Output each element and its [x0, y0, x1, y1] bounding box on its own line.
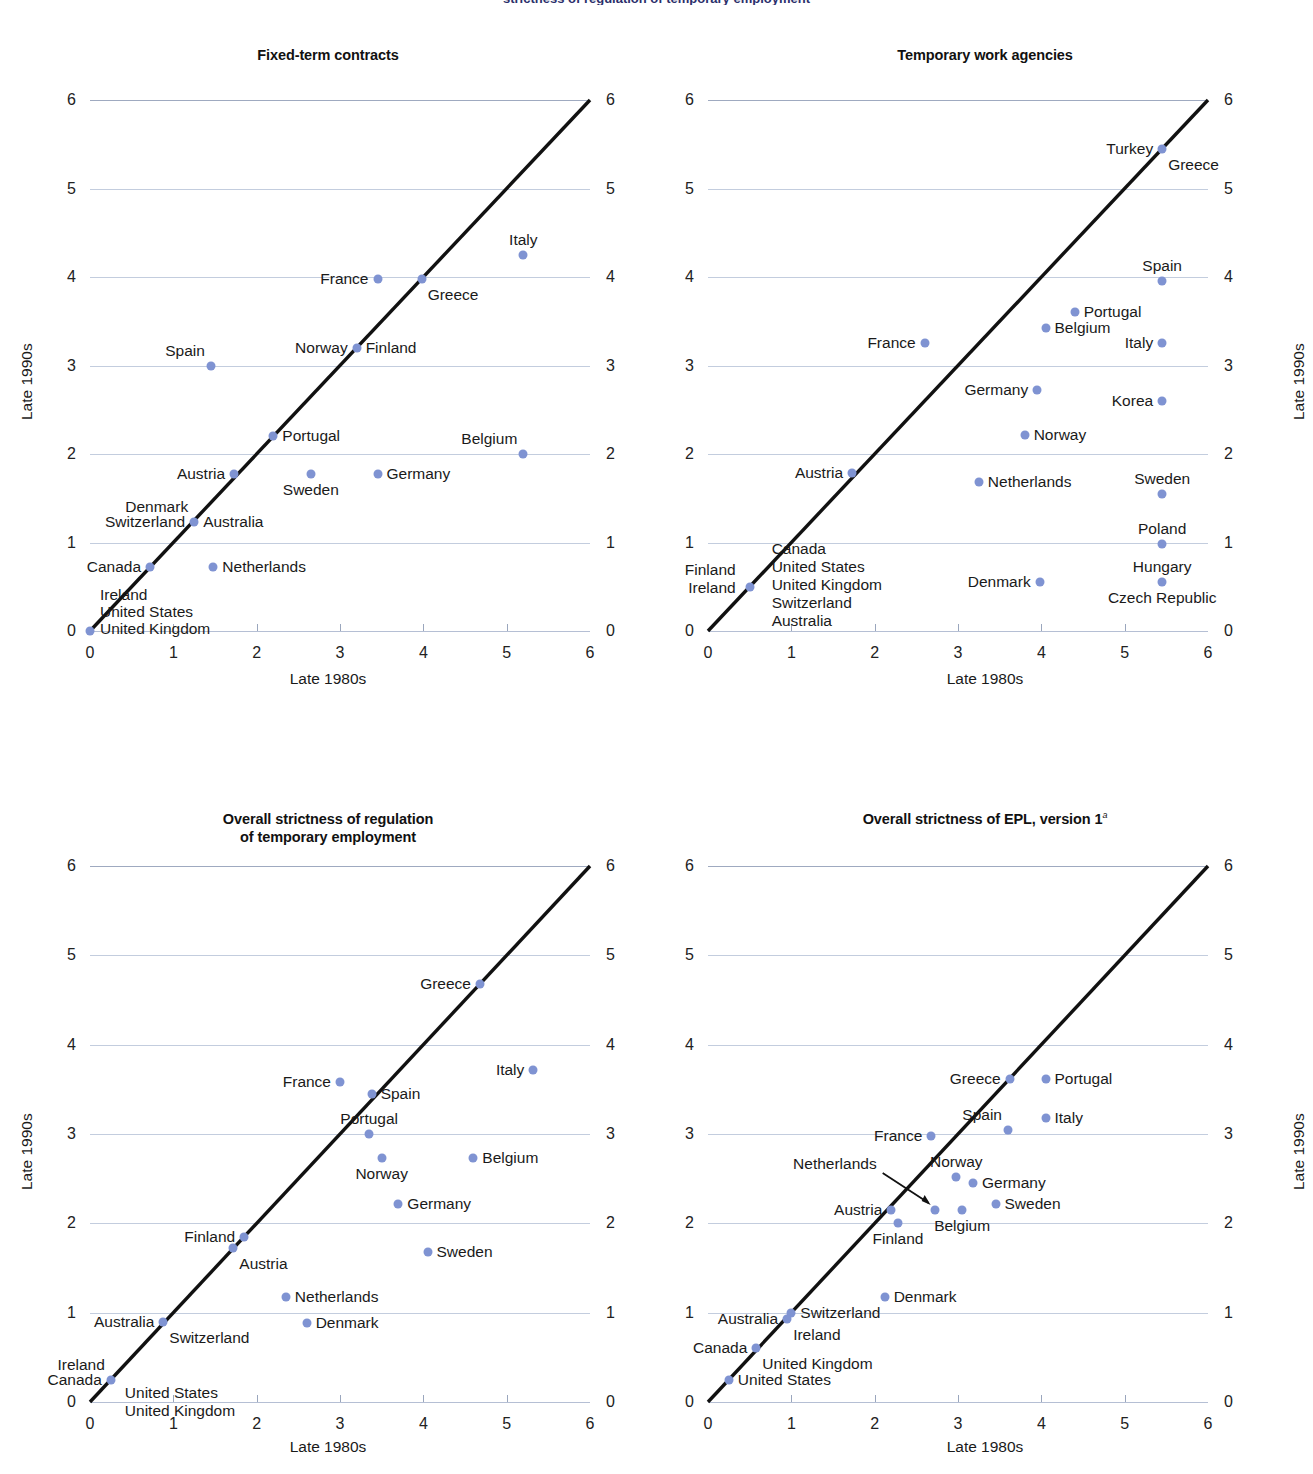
data-point	[1158, 144, 1167, 153]
point-label: Portugal	[282, 428, 340, 445]
point-label: Finland	[184, 1228, 235, 1245]
data-point	[306, 470, 315, 479]
point-label: Norway	[295, 339, 348, 356]
point-label: Australia	[94, 1313, 154, 1330]
point-label: Canada	[87, 559, 141, 576]
point-label: United Kingdom	[125, 1402, 235, 1419]
panel-overall-strictness-epl-v1: Overall strictness of EPL, version 1a001…	[657, 740, 1313, 1474]
data-point	[1158, 339, 1167, 348]
point-label: Switzerland	[105, 514, 185, 531]
data-point	[469, 1154, 478, 1163]
point-label: Finland	[685, 561, 736, 578]
point-label: Netherlands	[988, 474, 1072, 491]
diagonal-reference-line	[0, 0, 656, 736]
data-point	[336, 1078, 345, 1087]
point-label: Austria	[795, 465, 843, 482]
point-label: Sweden	[283, 482, 339, 499]
point-label: United States	[738, 1371, 831, 1388]
data-point	[920, 339, 929, 348]
data-point	[206, 361, 215, 370]
y-axis-label: Late 1990s	[1290, 343, 1308, 420]
data-point	[190, 518, 199, 527]
point-label: Belgium	[1055, 320, 1111, 337]
y-axis-label: Late 1990s	[1290, 1113, 1308, 1190]
point-label: Canada	[693, 1340, 747, 1357]
point-label: Hungary	[1133, 559, 1192, 576]
data-point	[783, 1314, 792, 1323]
panel-fixed-term-contracts: Fixed-term contracts00112233445566012345…	[0, 0, 656, 736]
data-point	[1158, 277, 1167, 286]
data-point	[229, 1244, 238, 1253]
point-label: United States	[772, 558, 865, 575]
data-point	[1020, 430, 1029, 439]
data-point	[377, 1154, 386, 1163]
point-label: Italy	[496, 1061, 524, 1078]
point-label: Netherlands	[222, 559, 306, 576]
point-label: Italy	[1125, 335, 1153, 352]
data-point	[958, 1205, 967, 1214]
point-label: Poland	[1138, 521, 1186, 538]
point-label: Switzerland	[772, 594, 852, 611]
point-label: United States	[100, 604, 193, 621]
point-label: Australia	[203, 514, 263, 531]
data-point	[352, 343, 361, 352]
data-point	[519, 250, 528, 259]
point-label: Belgium	[482, 1150, 538, 1167]
point-label: Ireland	[100, 587, 147, 604]
data-point	[209, 563, 218, 572]
point-label: Germany	[387, 466, 451, 483]
point-label: Norway	[1034, 426, 1087, 443]
point-label: Sweden	[1134, 470, 1190, 487]
point-label: Korea	[1112, 393, 1153, 410]
point-label: Sweden	[437, 1244, 493, 1261]
point-label: Denmark	[316, 1315, 379, 1332]
data-point	[848, 469, 857, 478]
data-point	[974, 478, 983, 487]
y-axis-label: Late 1990s	[18, 343, 36, 420]
data-point	[1033, 386, 1042, 395]
point-label: United States	[125, 1384, 218, 1401]
data-point	[529, 1065, 538, 1074]
data-point	[230, 470, 239, 479]
point-label: Spain	[1142, 258, 1182, 275]
point-label: Ireland	[793, 1327, 840, 1344]
point-label: United Kingdom	[772, 576, 882, 593]
point-label: France	[283, 1074, 331, 1091]
point-label: Denmark	[894, 1288, 957, 1305]
point-label: Netherlands	[295, 1288, 379, 1305]
point-label: Greece	[420, 976, 471, 993]
data-point	[86, 627, 95, 636]
data-point	[365, 1130, 374, 1139]
data-point	[281, 1292, 290, 1301]
data-point	[373, 274, 382, 283]
data-point	[745, 582, 754, 591]
point-label: Denmark	[968, 574, 1031, 591]
data-point	[1041, 324, 1050, 333]
y-axis-label: Late 1990s	[18, 1113, 36, 1190]
point-label: Italy	[509, 232, 537, 249]
x-axis-label: Late 1980s	[0, 670, 656, 688]
data-point	[1158, 578, 1167, 587]
point-label: Germany	[407, 1195, 471, 1212]
point-label: United Kingdom	[100, 621, 210, 638]
point-label: Norway	[355, 1166, 408, 1183]
point-label: Switzerland	[169, 1329, 249, 1346]
data-point	[302, 1319, 311, 1328]
point-label: Australia	[718, 1311, 778, 1328]
data-point	[146, 563, 155, 572]
point-label: Czech Republic	[1108, 590, 1217, 607]
point-label: Spain	[381, 1085, 421, 1102]
data-point	[159, 1317, 168, 1326]
point-label: Austria	[177, 466, 225, 483]
data-point	[1158, 540, 1167, 549]
data-point	[394, 1199, 403, 1208]
point-label: Portugal	[340, 1111, 398, 1128]
data-point	[106, 1375, 115, 1384]
data-point	[1158, 396, 1167, 405]
point-label: Austria	[239, 1256, 287, 1273]
point-label: Greece	[428, 286, 479, 303]
data-point	[724, 1375, 733, 1384]
panel-overall-strictness-temp-employment: Overall strictness of regulationof tempo…	[0, 740, 656, 1474]
data-point	[269, 432, 278, 441]
x-axis-label: Late 1980s	[657, 1438, 1313, 1456]
